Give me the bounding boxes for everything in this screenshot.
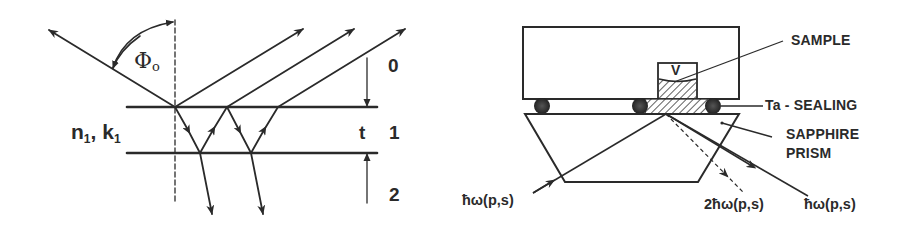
reflected-ray-2 [227, 29, 354, 107]
internal-ray-up-1 [200, 107, 227, 153]
medium-0-label: 0 [388, 56, 399, 75]
incident-beam-label: ħω(p,s) [462, 193, 514, 208]
ta-sealing-label: Ta - SEALING [765, 98, 857, 112]
o-ring-middle [632, 98, 648, 114]
reflected-beam-label: ħω(p,s) [804, 197, 856, 212]
internal-ray-down-1 [175, 107, 200, 153]
thin-film-diagram: Φo n1, k1 t 0 1 2 [0, 0, 460, 226]
o-ring-left [534, 98, 550, 114]
transmitted-ray-2 [251, 153, 263, 214]
reflected-ray-3 [278, 29, 405, 107]
reflected-ray-1 [175, 29, 303, 107]
sapphire-prism-label-line1: SAPPHIRE [786, 127, 859, 141]
second-harmonic-beam-label: 2ħω(p,s) [704, 197, 764, 212]
prism-cell-diagram: V SAMPLE Ta - SEALING SAPPHIRE PRISM ħω(… [460, 0, 912, 226]
thickness-label: t [359, 123, 365, 142]
sample-holder-block [523, 27, 739, 99]
angle-label: Φo [134, 50, 160, 73]
sample-label: SAMPLE [791, 33, 851, 47]
sapphire-prism-label-line2: PRISM [786, 146, 831, 160]
internal-ray-down-2 [227, 107, 251, 153]
medium-2-label: 2 [389, 185, 400, 204]
sample-leader-line [674, 41, 783, 82]
transmitted-ray-1 [200, 153, 212, 214]
layer-optical-constants-label: n1, k1 [71, 121, 121, 145]
ta-sealing-layer [645, 99, 713, 114]
sapphire-prism [525, 114, 739, 182]
internal-ray-up-2 [251, 107, 278, 153]
sample-box-letter: V [671, 63, 680, 77]
o-ring-right [705, 98, 721, 114]
medium-1-label: 1 [389, 123, 400, 142]
